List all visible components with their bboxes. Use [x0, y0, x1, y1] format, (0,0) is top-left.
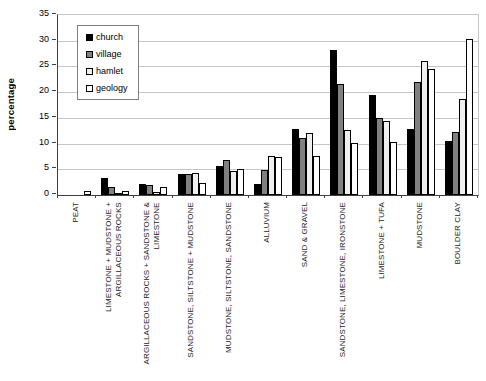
x-tick [286, 195, 287, 198]
geology-bar [428, 69, 435, 195]
church-bar [330, 50, 337, 195]
hamlet-bar [230, 171, 237, 195]
x-tick [324, 195, 325, 198]
legend-item-hamlet: hamlet [86, 66, 128, 76]
legend-item-geology: geology [86, 83, 128, 93]
hamlet-bar [383, 121, 390, 195]
y-tick-label: 35 [0, 8, 49, 18]
bar-group [134, 15, 172, 195]
y-tick [52, 64, 56, 65]
x-tick [362, 195, 363, 198]
x-tick [57, 195, 58, 198]
church-bar [254, 184, 261, 195]
x-tick [172, 195, 173, 198]
church-bar [407, 129, 414, 195]
x-category-label: ALLUVIUM [262, 202, 272, 243]
village-bar [337, 84, 344, 195]
bar-group [325, 15, 363, 195]
bar-group [364, 15, 402, 195]
village-bar [376, 118, 383, 195]
geology-bar [237, 169, 244, 195]
x-category-label: ARGILLACEOUS ROCKS + SANDSTONE & LIMESTO… [142, 202, 162, 364]
x-tick [439, 195, 440, 198]
geology-bar [275, 157, 282, 195]
y-tick [52, 193, 56, 194]
y-tick-label: 20 [0, 85, 49, 95]
geology-bar [84, 191, 91, 195]
geology-bar [313, 156, 320, 195]
bar-group [287, 15, 325, 195]
hamlet-bar [306, 133, 313, 195]
x-category-label: SAND & GRAVEL [300, 202, 310, 267]
bar-chart: percentage 05101520253035 PEATLIMESTONE … [0, 0, 486, 381]
y-tick-label: 10 [0, 137, 49, 147]
y-tick [52, 13, 56, 14]
x-category-label: LIMESTONE + TUFA [377, 202, 387, 279]
legend-marker-geology [86, 85, 93, 92]
village-bar [414, 82, 421, 195]
village-bar [452, 132, 459, 195]
x-tick [95, 195, 96, 198]
village-bar [146, 185, 153, 195]
church-bar [101, 178, 108, 195]
x-tick [477, 195, 478, 198]
church-bar [292, 129, 299, 195]
geology-bar [122, 191, 129, 195]
y-tick-label: 25 [0, 59, 49, 69]
bar-group [173, 15, 211, 195]
legend-label: geology [96, 83, 128, 93]
x-category-label: MUDSTONE [415, 202, 425, 248]
legend-label: church [96, 32, 123, 42]
x-tick [133, 195, 134, 198]
church-bar [216, 166, 223, 195]
x-tick [210, 195, 211, 198]
village-bar [185, 174, 192, 195]
x-category-label: PEAT [71, 202, 81, 223]
bar-group [211, 15, 249, 195]
hamlet-bar [153, 192, 160, 195]
x-category-label: BOULDER CLAY [453, 202, 463, 264]
geology-bar [199, 183, 206, 195]
x-category-label: MUDSTONE, SILTSTONE, SANDSTONE [224, 202, 234, 353]
hamlet-bar [192, 173, 199, 195]
church-bar [139, 184, 146, 195]
y-tick [52, 142, 56, 143]
geology-bar [351, 143, 358, 195]
x-tick [401, 195, 402, 198]
church-bar [369, 95, 376, 195]
hamlet-bar [344, 130, 351, 195]
hamlet-bar [268, 156, 275, 195]
x-category-label: SANDSTONE, LIMESTONE, IRONSTONE [338, 202, 348, 357]
y-tick [52, 90, 56, 91]
bar-group [440, 15, 478, 195]
legend-marker-church [86, 34, 93, 41]
hamlet-bar [459, 99, 466, 195]
village-bar [223, 160, 230, 195]
x-category-label: LIMESTONE + MUDSTONE + ARGILLACEOUS ROCK… [104, 202, 124, 312]
x-tick [248, 195, 249, 198]
bar-group [249, 15, 287, 195]
geology-bar [466, 39, 473, 195]
y-tick-label: 0 [0, 188, 49, 198]
legend-item-village: village [86, 49, 128, 59]
village-bar [108, 187, 115, 195]
hamlet-bar [421, 61, 428, 195]
legend-marker-village [86, 51, 93, 58]
church-bar [445, 141, 452, 195]
bar-group [402, 15, 440, 195]
legend: churchvillagehamletgeology [77, 25, 139, 100]
village-bar [261, 170, 268, 195]
y-tick [52, 39, 56, 40]
legend-label: village [96, 49, 122, 59]
y-tick [52, 167, 56, 168]
y-tick-label: 5 [0, 162, 49, 172]
geology-bar [390, 142, 397, 195]
village-bar [299, 138, 306, 195]
x-category-label: SANDSTONE, SILTSTONE + MUDSTONE [186, 202, 196, 358]
y-tick-label: 30 [0, 34, 49, 44]
y-tick [52, 116, 56, 117]
legend-item-church: church [86, 32, 128, 42]
legend-label: hamlet [96, 66, 123, 76]
y-tick-label: 15 [0, 111, 49, 121]
geology-bar [160, 187, 167, 195]
